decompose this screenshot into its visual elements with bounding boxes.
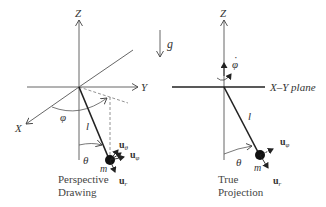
unit-phi-label: uφ [130, 149, 140, 162]
unit-theta-label: uθ [119, 139, 129, 152]
z-axis-label-right: Z [220, 7, 227, 19]
gravity-indicator: g [160, 30, 173, 57]
unit-r-label: ur [119, 175, 128, 188]
left-panel: Z Y X φ l θ m uθ uφ ur Perspective Drawi… [14, 7, 149, 198]
theta-arc-right [224, 146, 252, 154]
theta-label: θ [83, 154, 89, 166]
gravity-label: g [167, 37, 173, 51]
x-axis-label: X [14, 122, 23, 134]
theta-arc [79, 144, 102, 146]
caption-perspective: Perspective [58, 173, 109, 185]
pendulum-rod [79, 87, 109, 159]
caption-drawing: Drawing [58, 186, 97, 198]
x-axis [26, 87, 79, 124]
theta-label-right: θ [236, 156, 242, 168]
right-panel: Z X–Y plane φ · l θ m uφ ur True Project… [172, 7, 316, 198]
x-axis-back [79, 50, 133, 87]
caption-projection: Projection [218, 186, 264, 198]
length-label: l [86, 120, 89, 132]
z-axis-label: Z [75, 7, 82, 19]
phi-label: φ [60, 111, 66, 123]
y-axis-label: Y [141, 81, 149, 93]
mass-label-right: m [254, 162, 261, 173]
length-label-right: l [248, 110, 251, 122]
unit-r-label-right: ur [273, 175, 282, 188]
caption-true: True [218, 173, 238, 185]
pendulum-rod-right [224, 87, 259, 154]
unit-phi-label-right: uφ [280, 136, 290, 149]
pendulum-diagram: Z Y X φ l θ m uθ uφ ur Perspective Drawi… [0, 0, 326, 207]
xy-plane-label: X–Y plane [269, 81, 316, 93]
phi-dot-mark: · [234, 51, 238, 63]
